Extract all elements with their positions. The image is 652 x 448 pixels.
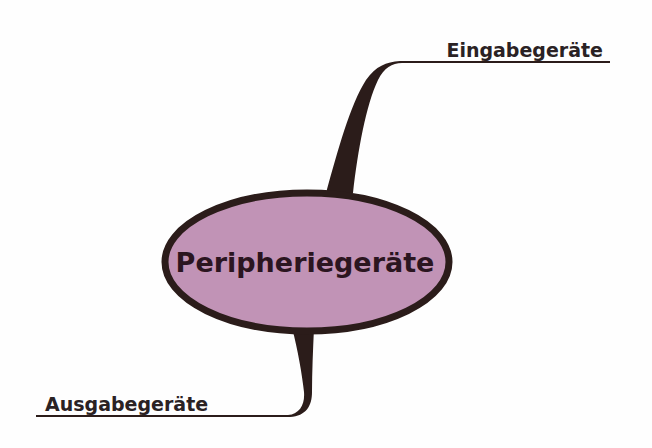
mindmap-canvas: Eingabegeräte Ausgabegeräte Peripheriege… xyxy=(0,0,652,448)
branch-eingabegeraete: Eingabegeräte xyxy=(326,39,610,193)
central-node: Peripheriegeräte xyxy=(165,193,449,331)
branch-label-eingabegeraete: Eingabegeräte xyxy=(446,39,603,61)
central-node-label: Peripheriegeräte xyxy=(176,247,435,278)
branch-ausgabegeraete: Ausgabegeräte xyxy=(36,328,314,417)
branch-connector-top xyxy=(326,61,610,193)
branch-label-ausgabegeraete: Ausgabegeräte xyxy=(45,393,208,415)
mindmap-diagram: Eingabegeräte Ausgabegeräte Peripheriege… xyxy=(0,0,652,448)
